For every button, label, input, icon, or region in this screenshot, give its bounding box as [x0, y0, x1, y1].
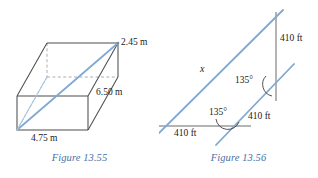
- short-parallel-line: [216, 64, 294, 145]
- height-label: 2.45 m: [121, 38, 147, 48]
- edge-right-bottom-depth: [88, 77, 118, 130]
- base-diagonal-line: [17, 77, 47, 130]
- diagonal-endpoint-marker: [117, 42, 120, 45]
- upper-angle-arc: [263, 76, 272, 96]
- width-label: 4.75 m: [31, 134, 57, 144]
- right-segment-label: 410 ft: [248, 112, 270, 122]
- box-diagram: [0, 0, 159, 150]
- figure-13-56-caption: Figure 13.56: [159, 152, 318, 163]
- upper-segment-label: 410 ft: [280, 34, 302, 44]
- figure-13-55-panel: 2.45 m 6.50 m 4.75 m Figure 13.55: [0, 0, 159, 178]
- figure-13-55-caption: Figure 13.55: [0, 152, 159, 163]
- length-label: 6.50 m: [96, 88, 122, 98]
- figure-page: 2.45 m 6.50 m 4.75 m Figure 13.55 410 ft…: [0, 0, 318, 178]
- figure-13-56-panel: 410 ft 135° 410 ft 135° 410 ft x Figure …: [159, 0, 318, 178]
- unknown-length-label: x: [200, 64, 204, 74]
- bottom-segment-label: 410 ft: [174, 129, 196, 139]
- lower-angle-label: 135°: [209, 108, 227, 118]
- upper-angle-label: 135°: [235, 76, 253, 86]
- edge-top-left-depth: [17, 43, 47, 96]
